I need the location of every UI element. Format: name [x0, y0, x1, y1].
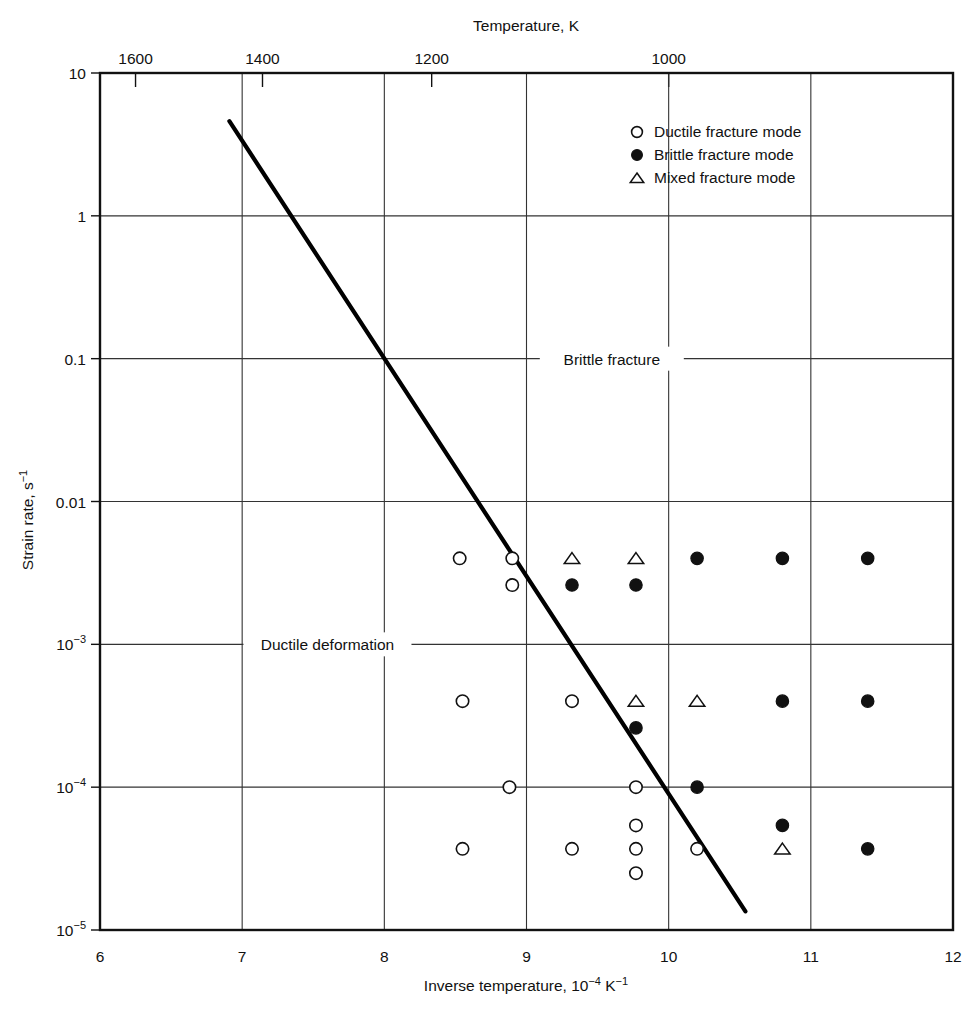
- data-point-open-triangle: [564, 553, 579, 564]
- legend-label: Ductile fracture mode: [654, 123, 801, 140]
- transition-boundary-line: [229, 121, 745, 911]
- series-open-circle: [453, 552, 703, 879]
- x-tick-label: 6: [96, 948, 105, 965]
- legend-item: Brittle fracture mode: [632, 146, 794, 163]
- y-axis-title-superscript: −1: [17, 470, 29, 483]
- data-point-filled-circle: [691, 552, 703, 564]
- y-axis-title-text: Strain rate, s: [19, 482, 36, 570]
- data-point-filled-circle: [630, 722, 642, 734]
- data-point-filled-circle: [566, 579, 578, 591]
- annotation: Ductile deformation: [243, 632, 411, 656]
- x-tick-label: 9: [522, 948, 531, 965]
- data-point-filled-circle: [862, 695, 874, 707]
- data-point-open-circle: [630, 781, 642, 793]
- data-point-filled-circle: [691, 781, 703, 793]
- annotation: Brittle fracture: [540, 347, 684, 371]
- legend-marker-open-circle: [632, 127, 643, 138]
- legend-marker-open-triangle: [630, 173, 643, 182]
- top-tick-label: 1600: [118, 50, 153, 67]
- x-axis-title-tail: K: [601, 977, 616, 994]
- x-tick-label: 8: [380, 948, 389, 965]
- x-axis-title-text: Inverse temperature, 10: [424, 977, 589, 994]
- top-tick-label: 1200: [414, 50, 449, 67]
- top-axis-tick-labels: 1600140012001000: [118, 50, 686, 67]
- top-axis-title: Temperature, K: [473, 17, 580, 34]
- y-tick-label: 10−5: [56, 919, 86, 939]
- x-tick-label: 10: [660, 948, 678, 965]
- data-point-filled-circle: [776, 819, 788, 831]
- data-point-open-circle: [691, 843, 703, 855]
- data-point-open-circle: [506, 579, 518, 591]
- x-axis-title-superscript: −4: [588, 975, 601, 987]
- data-point-filled-circle: [862, 552, 874, 564]
- y-tick-label: 10: [69, 65, 87, 82]
- data-point-open-circle: [566, 695, 578, 707]
- legend-label: Mixed fracture mode: [654, 169, 795, 186]
- svg-text:Inverse temperature, 10−4 K−1: Inverse temperature, 10−4 K−1: [424, 975, 628, 994]
- y-tick-label: 1: [77, 208, 86, 225]
- data-point-open-circle: [566, 843, 578, 855]
- y-axis-title: Strain rate, s−1: [17, 470, 36, 570]
- x-tick-label: 12: [944, 948, 961, 965]
- legend-label: Brittle fracture mode: [654, 146, 794, 163]
- scatter-plot: Temperature, K 1600140012001000 1010.10.…: [0, 0, 979, 1015]
- annotation-label: Ductile deformation: [261, 636, 395, 653]
- data-point-filled-circle: [862, 843, 874, 855]
- x-tick-label: 11: [803, 948, 819, 965]
- y-tick-label: 10−4: [56, 776, 86, 796]
- data-point-open-circle: [630, 843, 642, 855]
- data-point-filled-circle: [776, 552, 788, 564]
- x-axis-tick-labels: 6789101112: [96, 948, 962, 965]
- data-point-open-triangle: [628, 695, 643, 706]
- data-point-open-triangle: [689, 695, 704, 706]
- x-axis-title: Inverse temperature, 10−4 K−1: [424, 975, 628, 994]
- data-point-open-circle: [503, 781, 515, 793]
- ductile-brittle-transition-line: [229, 121, 745, 911]
- data-point-open-circle: [453, 552, 465, 564]
- x-axis-title-tail-superscript: −1: [616, 975, 629, 987]
- data-point-open-triangle: [628, 553, 643, 564]
- data-point-open-circle: [506, 552, 518, 564]
- x-tick-label: 7: [238, 948, 247, 965]
- top-axis-tick-marks: [136, 73, 669, 87]
- annotation-label: Brittle fracture: [564, 351, 660, 368]
- data-point-open-circle: [630, 867, 642, 879]
- top-tick-label: 1000: [651, 50, 686, 67]
- y-axis-tick-labels: 1010.10.0110−310−410−5: [56, 65, 100, 939]
- data-point-open-circle: [456, 695, 468, 707]
- y-tick-label: 0.01: [56, 494, 86, 511]
- legend-item: Ductile fracture mode: [632, 123, 802, 140]
- legend-marker-filled-circle: [632, 150, 643, 161]
- data-point-filled-circle: [776, 695, 788, 707]
- legend-item: Mixed fracture mode: [630, 169, 795, 186]
- y-tick-label: 0.1: [64, 351, 86, 368]
- svg-text:Strain rate, s−1: Strain rate, s−1: [17, 470, 36, 570]
- data-point-filled-circle: [630, 579, 642, 591]
- y-tick-label: 10−3: [56, 633, 86, 653]
- data-point-open-circle: [630, 819, 642, 831]
- data-point-open-triangle: [775, 843, 790, 854]
- figure-container: Temperature, K 1600140012001000 1010.10.…: [0, 0, 979, 1015]
- legend: Ductile fracture modeBrittle fracture mo…: [630, 123, 801, 186]
- data-point-open-circle: [456, 843, 468, 855]
- top-tick-label: 1400: [245, 50, 280, 67]
